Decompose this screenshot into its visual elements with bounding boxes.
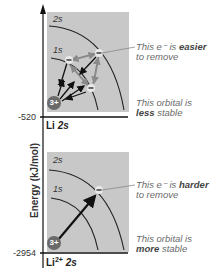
electron-2s-li2plus <box>95 186 103 194</box>
axis-arrow-icon <box>40 4 46 14</box>
orbital-label-2s-top: 2s <box>53 14 63 24</box>
orbital-label-1s-bottom: 1s <box>53 184 63 194</box>
level-label-li2plus-2s: Li2+ 2s <box>46 256 77 268</box>
nucleus-charge-top: 3+ <box>48 98 60 107</box>
callout-electron-easier: This e⁻ is easier to remove <box>136 42 207 62</box>
callout-orbital-more-stable: This orbital is more stable <box>136 234 192 254</box>
tick-2954: -2954 <box>2 248 36 258</box>
callout-electron-harder: This e⁻ is harder to remove <box>136 180 209 200</box>
callout-orbital-less-stable: This orbital is less stable <box>136 98 192 118</box>
y-axis-label: Energy (kJ/mol) <box>29 143 40 218</box>
tick-520: -520 <box>2 112 36 122</box>
orbital-label-1s-top: 1s <box>53 45 63 55</box>
electron-2s <box>95 49 103 57</box>
electron-1s-b <box>87 84 95 92</box>
nucleus-charge-bottom: 3+ <box>48 238 60 247</box>
orbital-label-2s-bottom: 2s <box>53 155 63 165</box>
electron-1s-a <box>65 56 73 64</box>
level-label-li-2s: Li 2s <box>46 120 69 131</box>
